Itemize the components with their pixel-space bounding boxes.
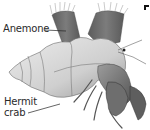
crab-eye bbox=[123, 49, 126, 52]
hermit-crab-label-line2: crab bbox=[4, 107, 25, 118]
corner-crop-mark bbox=[144, 5, 149, 10]
hermit-crab-label-line1: Hermit bbox=[4, 96, 37, 107]
anemone-label: Anemone bbox=[3, 23, 49, 34]
anemone-left bbox=[50, 2, 80, 43]
hermit-crab-diagram: Anemone Hermit crab bbox=[0, 0, 150, 130]
anemone-right bbox=[88, 2, 128, 44]
